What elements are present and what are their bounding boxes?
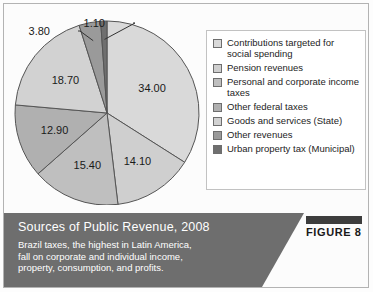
- figure-number-tab: FIGURE 8: [306, 216, 364, 238]
- legend-item[interactable]: Urban property tax (Municipal): [213, 143, 360, 154]
- legend-swatch-icon: [213, 117, 222, 126]
- legend-item-label: Contributions targeted for social spendi…: [227, 37, 360, 59]
- caption-text-block: Sources of Public Revenue, 2008 Brazil t…: [18, 220, 268, 274]
- legend-item[interactable]: Pension revenues: [213, 62, 360, 73]
- legend-swatch-icon: [213, 78, 222, 87]
- legend-item-label: Goods and services (State): [227, 115, 342, 126]
- pie-slice-value-label: 34.00: [138, 82, 166, 94]
- legend-item-label: Urban property tax (Municipal): [227, 143, 355, 154]
- legend-swatch-icon: [213, 39, 222, 48]
- pie-chart-svg: 34.0014.1015.4012.9018.703.801.10: [5, 5, 205, 205]
- pie-slice-value-label: 1.10: [84, 17, 105, 29]
- pie-slice-value-label: 3.80: [29, 25, 50, 37]
- pie-chart-panel: 34.0014.1015.4012.9018.703.801.10: [5, 5, 205, 205]
- legend-item[interactable]: Contributions targeted for social spendi…: [213, 37, 360, 59]
- legend-swatch-icon: [213, 145, 222, 154]
- legend-item[interactable]: Personal and corporate income taxes: [213, 76, 360, 98]
- caption-title: Sources of Public Revenue, 2008: [18, 220, 268, 234]
- legend-item-label: Pension revenues: [227, 62, 303, 73]
- pie-slices-group: [15, 21, 199, 205]
- legend-item[interactable]: Goods and services (State): [213, 115, 360, 126]
- caption-line: fall on corporate and individual income,: [18, 251, 268, 263]
- legend-item-label: Other federal taxes: [227, 101, 308, 112]
- legend-item[interactable]: Other revenues: [213, 129, 360, 140]
- figure-container: 34.0014.1015.4012.9018.703.801.10 Contri…: [0, 0, 373, 292]
- pie-slice-value-label: 12.90: [41, 124, 69, 136]
- legend-swatch-icon: [213, 131, 222, 140]
- figure-tab-bar-decoration: [306, 216, 362, 224]
- chart-legend: Contributions targeted for social spendi…: [206, 30, 366, 190]
- caption-line: Brazil taxes, the highest in Latin Ameri…: [18, 239, 268, 251]
- pie-slice-value-label: 15.40: [74, 159, 102, 171]
- legend-item-label: Other revenues: [227, 129, 292, 140]
- legend-swatch-icon: [213, 103, 222, 112]
- caption-line: property, consumption, and profits.: [18, 262, 268, 274]
- figure-number-label: FIGURE 8: [306, 226, 364, 238]
- pie-slice-value-label: 14.10: [124, 155, 152, 167]
- pie-slice-value-label: 18.70: [52, 74, 80, 86]
- legend-item[interactable]: Other federal taxes: [213, 101, 360, 112]
- legend-item-label: Personal and corporate income taxes: [227, 76, 360, 98]
- legend-swatch-icon: [213, 64, 222, 73]
